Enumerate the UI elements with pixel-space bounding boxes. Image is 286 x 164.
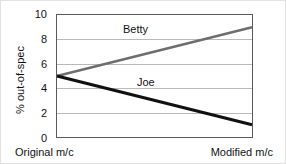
y-tick-label-6: 6: [21, 59, 47, 70]
x-axis-label-modified: Modified m/c: [211, 146, 273, 158]
y-tick-label-10: 10: [21, 9, 47, 20]
series-label-betty: Betty: [120, 23, 151, 35]
line-chart-figure: % out-of-spec 10 8 6 4 2 0 Betty Joe Ori…: [0, 0, 286, 164]
y-tick-label-0: 0: [21, 133, 47, 144]
y-tick-label-8: 8: [21, 34, 47, 45]
y-tick-label-2: 2: [21, 108, 47, 119]
series-line-betty: [57, 27, 252, 76]
y-tick-label-4: 4: [21, 83, 47, 94]
series-label-joe: Joe: [134, 76, 158, 88]
x-axis-label-original: Original m/c: [15, 146, 74, 158]
